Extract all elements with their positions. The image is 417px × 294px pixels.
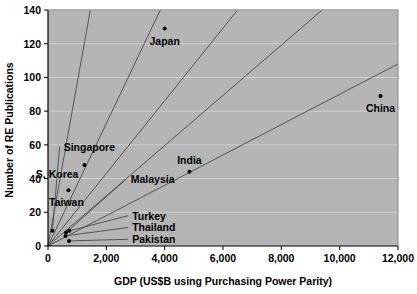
point-label-taiwan: Taiwan bbox=[49, 196, 84, 208]
point-label-thailand: Thailand bbox=[132, 221, 175, 233]
chart-container: 02,0004,0006,0008,00010,00012,000 020406… bbox=[0, 0, 417, 294]
data-point-turkey bbox=[67, 229, 71, 233]
data-point-china bbox=[379, 94, 383, 98]
y-axis-title: Number of RE Publications bbox=[3, 62, 15, 198]
x-axis-title: GDP (US$B using Purchasing Power Parity) bbox=[114, 275, 332, 287]
x-tick-label: 8,000 bbox=[268, 252, 294, 264]
x-tick-label: 2,000 bbox=[93, 252, 119, 264]
point-label-japan: Japan bbox=[149, 35, 179, 47]
point-label-india: India bbox=[177, 154, 202, 166]
data-point-thailand bbox=[64, 234, 68, 238]
data-point-singapore bbox=[50, 229, 54, 233]
x-tick-label: 6,000 bbox=[210, 252, 236, 264]
y-tick-label: 60 bbox=[29, 139, 41, 151]
x-tick-label: 12,000 bbox=[382, 252, 414, 264]
y-tick-label: 100 bbox=[23, 71, 41, 83]
data-point-india bbox=[187, 170, 191, 174]
point-label-turkey: Turkey bbox=[132, 210, 166, 222]
point-label-pakistan: Pakistan bbox=[132, 233, 175, 245]
y-tick-label: 120 bbox=[23, 38, 41, 50]
y-tick-label: 140 bbox=[23, 4, 41, 16]
point-label-malaysia: Malaysia bbox=[131, 173, 175, 185]
scatter-chart: 02,0004,0006,0008,00010,00012,000 020406… bbox=[0, 0, 417, 294]
point-label-skorea: S. Korea bbox=[36, 168, 79, 180]
data-point-japan bbox=[163, 27, 167, 31]
plot-area-background bbox=[48, 10, 398, 246]
data-point-skorea bbox=[82, 163, 86, 167]
x-tick-label: 0 bbox=[45, 252, 51, 264]
y-tick-label: 0 bbox=[35, 240, 41, 252]
point-label-singapore: Singapore bbox=[64, 141, 116, 153]
y-tick-label: 80 bbox=[29, 105, 41, 117]
x-tick-label: 10,000 bbox=[324, 252, 356, 264]
data-point-pakistan bbox=[67, 239, 71, 243]
data-point-taiwan bbox=[66, 188, 70, 192]
point-label-china: China bbox=[366, 102, 395, 114]
x-tick-label: 4,000 bbox=[152, 252, 178, 264]
y-tick-label: 20 bbox=[29, 206, 41, 218]
